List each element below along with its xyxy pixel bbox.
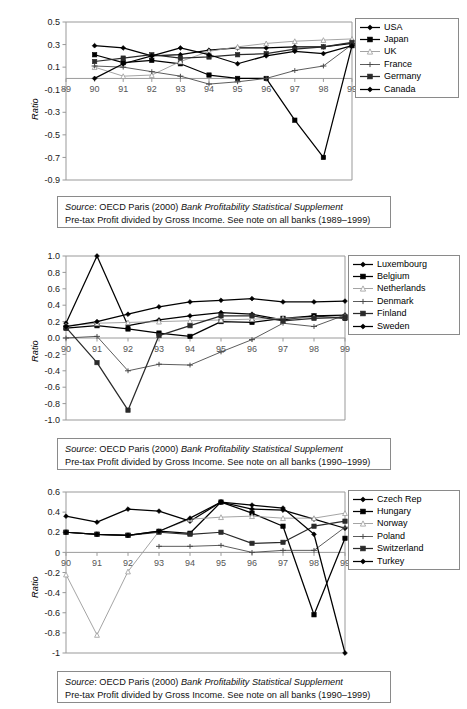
legend-label: Poland: [377, 531, 405, 542]
svg-text:-0.8: -0.8: [44, 628, 60, 638]
legend-label: France: [384, 59, 412, 70]
figure-3-legend: Czech RepHungaryNorwayPolandSwitzerlandT…: [348, 490, 460, 570]
svg-text:92: 92: [123, 344, 133, 354]
figure-1-caption-line-2: Pre-tax Profit divided by Gross Income. …: [65, 214, 383, 227]
figure-3-y-axis-label: Ratio: [30, 576, 40, 598]
legend-marker-icon: [352, 518, 374, 529]
legend-label: Finland: [377, 308, 407, 319]
legend-item-switzerland[interactable]: Switzerland: [352, 543, 454, 555]
figure-1-legend: USAJapanUKFranceGermanyCanada: [355, 18, 459, 98]
legend-item-norway[interactable]: Norway: [352, 518, 454, 530]
legend-label: Belgium: [377, 271, 410, 282]
legend-item-luxembourg[interactable]: Luxembourg: [352, 258, 454, 270]
svg-text:-1: -1: [52, 648, 60, 658]
svg-text:98: 98: [318, 84, 328, 94]
figure-1: Ratio -0.9-0.7-0.5-0.3-0.10.10.30.589909…: [0, 0, 467, 240]
legend-marker-icon: [359, 34, 381, 45]
svg-text:-0.3: -0.3: [44, 107, 60, 117]
legend-marker-icon: [352, 494, 374, 505]
legend-item-belgium[interactable]: Belgium: [352, 270, 454, 282]
legend-item-denmark[interactable]: Denmark: [352, 295, 454, 307]
svg-text:-0.6: -0.6: [44, 608, 60, 618]
figure-2-caption-line-2: Pre-tax Profit divided by Gross Income. …: [65, 456, 383, 469]
figure-2-caption-line-1: Source: OECD Paris (2000) Bank Profitabi…: [65, 443, 383, 456]
svg-text:97: 97: [278, 344, 288, 354]
svg-text:-0.6: -0.6: [44, 382, 60, 392]
legend-marker-icon: [352, 531, 374, 542]
svg-text:90: 90: [90, 84, 100, 94]
legend-label: Sweden: [377, 321, 410, 332]
svg-text:90: 90: [61, 344, 71, 354]
svg-text:91: 91: [92, 558, 102, 568]
legend-item-japan[interactable]: Japan: [359, 33, 453, 45]
svg-text:90: 90: [61, 558, 71, 568]
legend-label: Germany: [384, 71, 421, 82]
legend-label: Norway: [377, 518, 408, 529]
legend-item-sweden[interactable]: Sweden: [352, 320, 454, 332]
legend-item-uk[interactable]: UK: [359, 46, 453, 58]
svg-text:-0.4: -0.4: [44, 588, 60, 598]
svg-text:-0.1: -0.1: [44, 85, 60, 95]
legend-marker-icon: [352, 283, 374, 294]
legend-label: Japan: [384, 34, 409, 45]
figure-3-caption-line-1: Source: OECD Paris (2000) Bank Profitabi…: [65, 676, 383, 689]
legend-item-france[interactable]: France: [359, 58, 453, 70]
svg-text:98: 98: [309, 344, 319, 354]
svg-text:92: 92: [147, 84, 157, 94]
svg-text:0.4: 0.4: [47, 507, 60, 517]
figure-1-y-axis-label: Ratio: [30, 98, 40, 120]
svg-text:0.6: 0.6: [47, 284, 60, 294]
legend-marker-icon: [352, 321, 374, 332]
svg-text:89: 89: [61, 84, 71, 94]
legend-label: UK: [384, 46, 397, 57]
legend-marker-icon: [352, 543, 374, 554]
svg-text:-0.2: -0.2: [44, 568, 60, 578]
legend-item-czech-rep[interactable]: Czech Rep: [352, 493, 454, 505]
legend-marker-icon: [352, 271, 374, 282]
legend-item-canada[interactable]: Canada: [359, 83, 453, 95]
legend-item-turkey[interactable]: Turkey: [352, 555, 454, 567]
svg-text:1.0: 1.0: [47, 251, 60, 261]
svg-text:-0.2: -0.2: [44, 350, 60, 360]
figure-2-y-axis-label: Ratio: [30, 340, 40, 362]
legend-marker-icon: [352, 556, 374, 567]
legend-item-netherlands[interactable]: Netherlands: [352, 283, 454, 295]
svg-text:0.1: 0.1: [47, 62, 60, 72]
legend-label: Netherlands: [377, 283, 426, 294]
figure-1-caption-line-1: Source: OECD Paris (2000) Bank Profitabi…: [65, 201, 383, 214]
legend-marker-icon: [359, 46, 381, 57]
svg-text:0.2: 0.2: [47, 527, 60, 537]
legend-label: Switzerland: [377, 543, 424, 554]
svg-text:-0.7: -0.7: [44, 153, 60, 163]
figure-2-legend: LuxembourgBelgiumNetherlandsDenmarkFinla…: [348, 255, 460, 335]
svg-text:0.5: 0.5: [47, 17, 60, 27]
legend-item-germany[interactable]: Germany: [359, 71, 453, 83]
legend-marker-icon: [359, 59, 381, 70]
svg-text:0: 0: [55, 548, 60, 558]
svg-text:91: 91: [92, 344, 102, 354]
svg-text:-0.8: -0.8: [44, 399, 60, 409]
legend-marker-icon: [359, 71, 381, 82]
legend-item-poland[interactable]: Poland: [352, 530, 454, 542]
svg-text:98: 98: [309, 558, 319, 568]
svg-text:93: 93: [154, 558, 164, 568]
svg-text:96: 96: [247, 344, 257, 354]
svg-text:93: 93: [175, 84, 185, 94]
svg-text:99: 99: [340, 344, 350, 354]
svg-text:95: 95: [233, 84, 243, 94]
svg-text:-1.0: -1.0: [44, 415, 60, 425]
legend-marker-icon: [352, 259, 374, 270]
figure-3-caption-line-2: Pre-tax Profit divided by Gross Income. …: [65, 689, 383, 702]
figure-2-caption: Source: OECD Paris (2000) Bank Profitabi…: [57, 438, 391, 470]
legend-marker-icon: [359, 84, 381, 95]
legend-item-finland[interactable]: Finland: [352, 308, 454, 320]
legend-item-usa[interactable]: USA: [359, 21, 453, 33]
legend-label: Canada: [384, 84, 416, 95]
svg-text:91: 91: [118, 84, 128, 94]
svg-text:96: 96: [261, 84, 271, 94]
legend-label: Denmark: [377, 296, 414, 307]
legend-item-hungary[interactable]: Hungary: [352, 505, 454, 517]
svg-text:95: 95: [216, 558, 226, 568]
figure-2: Ratio -1.0-0.8-0.6-0.4-0.20.00.20.40.60.…: [0, 242, 467, 476]
svg-text:-0.4: -0.4: [44, 366, 60, 376]
